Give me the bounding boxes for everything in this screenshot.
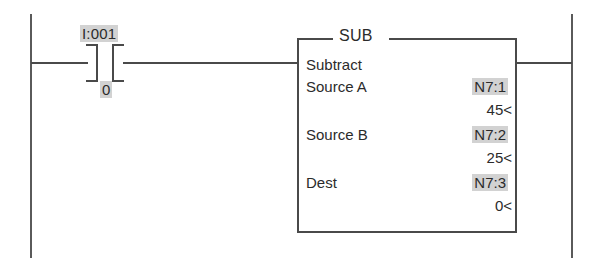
contact-address-field[interactable]: I:001 [80, 25, 118, 42]
parameter-address-source-a-text: N7:1 [472, 78, 508, 95]
parameter-label-dest: Dest [306, 174, 337, 191]
parameter-address-dest-text: N7:3 [472, 174, 508, 191]
instruction-name: Subtract [306, 56, 362, 73]
parameter-address-dest[interactable]: N7:3 [472, 174, 508, 191]
parameter-address-source-a[interactable]: N7:1 [472, 78, 508, 95]
rung-wire-rail-to-contact [31, 62, 88, 64]
contact-right-bar [112, 44, 114, 82]
contact-address-label: I:001 [80, 25, 118, 42]
contact-stub-top-right [113, 44, 124, 46]
parameter-value-source-b: 25< [306, 149, 512, 166]
rung-wire-block-to-rail [517, 62, 572, 64]
contact-bit-label: 0 [100, 81, 112, 98]
parameter-row-dest[interactable]: Dest N7:3 [306, 174, 510, 195]
contact-stub-bottom-left [86, 80, 97, 82]
parameter-value-dest: 0< [306, 197, 512, 214]
parameter-row-source-a[interactable]: Source A N7:1 [306, 78, 510, 99]
parameter-row-source-b[interactable]: Source B N7:2 [306, 126, 510, 147]
contact-bit-field[interactable]: 0 [100, 81, 112, 98]
contact-stub-top-left [86, 44, 97, 46]
parameter-address-source-b[interactable]: N7:2 [472, 126, 508, 143]
instruction-mnemonic: SUB [336, 27, 376, 45]
xic-contact-icon[interactable] [85, 44, 125, 82]
right-power-rail [571, 14, 573, 258]
parameter-label-source-a: Source A [306, 78, 367, 95]
left-power-rail [30, 14, 32, 258]
rung-wire-contact-to-block [123, 62, 298, 64]
ladder-logic-rung-canvas: I:001 0 SUB Subtract Source A N7:1 45< S… [0, 0, 605, 268]
contact-stub-bottom-right [113, 80, 124, 82]
parameter-address-source-b-text: N7:2 [472, 126, 508, 143]
parameter-value-source-a: 45< [306, 101, 512, 118]
contact-left-bar [96, 44, 98, 82]
parameter-label-source-b: Source B [306, 126, 368, 143]
